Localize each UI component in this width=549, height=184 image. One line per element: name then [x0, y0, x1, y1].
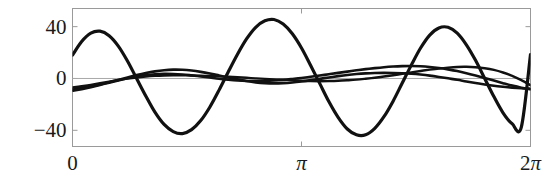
pi-glyph-2: π [530, 151, 541, 175]
x-tick-label-0: 0 [67, 153, 78, 174]
data-curves [73, 19, 531, 135]
y-tick-label-minus40: −40 [34, 120, 67, 141]
x-tick-label-2pi: 2π [520, 153, 541, 174]
y-tick-label-0: 0 [56, 68, 67, 89]
x-tick-label-pi: π [296, 153, 307, 174]
x-tick-2pi-coefficient: 2 [520, 151, 531, 175]
plot-canvas [0, 0, 549, 184]
y-tick-label-40: 40 [46, 16, 67, 37]
pi-glyph: π [296, 151, 307, 175]
chart-figure: 40 0 −40 0 π 2π [0, 0, 549, 184]
